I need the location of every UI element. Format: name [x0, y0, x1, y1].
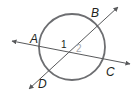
angle-label-1: 1 [61, 39, 67, 50]
diagram-canvas: A B C D 1 2 [0, 0, 136, 94]
point-label-c: C [106, 65, 115, 79]
point-label-b: B [91, 6, 99, 20]
angle-label-2: 2 [76, 43, 82, 54]
point-label-d: D [38, 77, 47, 91]
point-label-a: A [29, 32, 38, 46]
